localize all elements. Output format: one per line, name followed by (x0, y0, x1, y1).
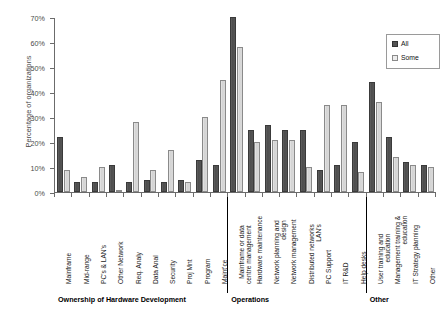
bar-some (272, 140, 278, 193)
bar-all (230, 17, 236, 192)
bar-all (144, 180, 150, 193)
bar-all (126, 182, 132, 192)
bar-some (116, 190, 122, 193)
bar-some (133, 122, 139, 192)
legend-item-all: All (392, 40, 409, 47)
x-axis-label: Network management (290, 219, 297, 284)
bar-some (185, 182, 191, 192)
y-tick: 40% (50, 93, 54, 94)
bar-group (334, 18, 349, 192)
bar-group (368, 18, 383, 192)
x-axis-label: Proj Mnt (186, 259, 193, 284)
bar-some (99, 167, 105, 192)
legend-swatch-some-icon (392, 55, 398, 61)
bar-all (421, 165, 427, 193)
bar-group (351, 18, 366, 192)
bar-all (352, 142, 358, 192)
bar-some (410, 165, 416, 193)
legend-label-all: All (401, 40, 409, 47)
bar-some (393, 157, 399, 192)
bar-all (196, 160, 202, 193)
bar-some (81, 177, 87, 192)
bar-some (64, 170, 70, 193)
bar-group (91, 18, 106, 192)
y-tick: 30% (50, 118, 54, 119)
y-tick-label: 60% (31, 39, 45, 48)
bar-all (334, 165, 340, 193)
bar-all (403, 162, 409, 192)
group-divider (227, 197, 228, 293)
bar-all (213, 165, 219, 193)
plot-area: 0%10%20%30%40%50%60%70% (54, 18, 436, 193)
x-axis-label: Other (429, 268, 436, 285)
x-axis-label: Mainframe or data centre management (238, 225, 253, 284)
x-axis-label: Security (169, 260, 176, 284)
x-axis-label: PC's & LAN's (100, 245, 107, 284)
x-axis-label: Mid-range (83, 254, 90, 284)
bar-group (178, 18, 193, 192)
bar-group (299, 18, 314, 192)
y-tick: 60% (50, 43, 54, 44)
bar-some (428, 167, 434, 192)
bar-some (341, 105, 347, 193)
bar-group (143, 18, 158, 192)
bar-series-group (55, 18, 436, 192)
bar-all (282, 130, 288, 193)
bar-some (324, 105, 330, 193)
bar-group (230, 18, 245, 192)
bar-group (195, 18, 210, 192)
y-tick-label: 40% (31, 89, 45, 98)
x-axis-labels: MainframeMid-rangePC's & LAN'sOther Netw… (54, 196, 436, 288)
bar-all (386, 137, 392, 192)
bar-some (289, 140, 295, 193)
bar-some (202, 117, 208, 192)
legend-label-some: Some (401, 54, 419, 61)
x-axis-label: Req. Analy (135, 252, 142, 284)
y-tick-label: 20% (31, 139, 45, 148)
group-divider (366, 197, 367, 293)
x-axis-label: IT R&D (342, 263, 349, 285)
x-axis-label: IT Strategy planning (412, 225, 419, 284)
bar-all (178, 180, 184, 193)
x-axis-label: Network planning and design (273, 220, 288, 284)
x-axis-label: Hardware maintenance (256, 216, 263, 284)
x-axis-label: User training and education (377, 234, 392, 284)
bar-group (282, 18, 297, 192)
y-tick-label: 0% (35, 189, 45, 198)
bar-all (369, 82, 375, 192)
legend-swatch-all-icon (392, 41, 398, 47)
y-tick-label: 70% (31, 14, 45, 23)
legend-item-some: Some (392, 54, 419, 61)
bar-some (237, 47, 243, 192)
bar-some (150, 170, 156, 193)
group-label: Other (370, 295, 389, 304)
bar-some (358, 172, 364, 192)
bar-group (109, 18, 124, 192)
y-tick-label: 30% (31, 114, 45, 123)
bar-group (247, 18, 262, 192)
x-axis-label: Distributed networks LAN's (308, 224, 323, 284)
y-axis-title: Percentage of organizations (24, 27, 33, 177)
bar-all (161, 182, 167, 192)
y-tick: 20% (50, 143, 54, 144)
bar-all (300, 130, 306, 193)
x-axis-label: Program (204, 259, 211, 284)
bar-all (109, 165, 115, 193)
bar-all (317, 170, 323, 193)
bar-all (57, 137, 63, 192)
bar-some (220, 80, 226, 193)
bar-group (316, 18, 331, 192)
x-axis-label: Other Network (117, 241, 124, 284)
x-axis-label: Management training & education (394, 216, 409, 284)
bar-group (126, 18, 141, 192)
bar-some (168, 150, 174, 193)
y-tick-label: 10% (31, 164, 45, 173)
bar-some (376, 102, 382, 192)
x-axis-label: PC Support (325, 250, 332, 284)
x-axis-label: Data Anal (152, 255, 159, 284)
y-tick: 70% (50, 18, 54, 19)
bar-group (212, 18, 227, 192)
bar-some (254, 142, 260, 192)
bar-all (74, 182, 80, 192)
bar-all (92, 182, 98, 192)
